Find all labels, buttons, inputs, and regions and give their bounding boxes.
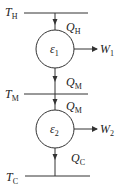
engine-1: ε1 <box>36 30 74 68</box>
work-output-w1: W1 <box>74 42 114 58</box>
arrow-down-icon <box>53 19 58 25</box>
arrow-down-icon <box>53 154 58 160</box>
heat-flow-qh: QH <box>53 13 81 36</box>
reservoir-middle-label: TM <box>5 87 19 103</box>
reservoir-hot-label: TH <box>5 5 18 21</box>
reservoir-cold: TC <box>6 170 90 186</box>
engine-2: ε2 <box>36 110 74 148</box>
heat-flow-qc-label: QC <box>71 151 85 167</box>
work-output-w2: W2 <box>74 122 114 138</box>
reservoir-cold-label: TC <box>6 170 18 186</box>
engine-2-label: ε2 <box>50 122 59 138</box>
work-output-w1-label: W1 <box>100 42 114 58</box>
heat-flow-qm-upper-label: QM <box>66 75 82 91</box>
heat-flow-qm-lower-label: QM <box>66 99 82 115</box>
heat-flow-qm-upper: QM <box>53 68 82 94</box>
reservoir-hot: TH <box>5 5 88 21</box>
work-output-w2-label: W2 <box>100 122 114 138</box>
arrow-down-icon <box>53 76 58 82</box>
engine-1-label: ε1 <box>50 42 59 58</box>
heat-flow-qm-lower: QM <box>53 94 82 115</box>
heat-flow-qc: QC <box>53 148 86 176</box>
heat-flow-qh-label: QH <box>66 20 81 36</box>
heat-engine-diagram: TH QH ε1 W1 QM TM QM ε2 W2 <box>0 0 124 194</box>
arrow-down-icon <box>53 99 58 105</box>
